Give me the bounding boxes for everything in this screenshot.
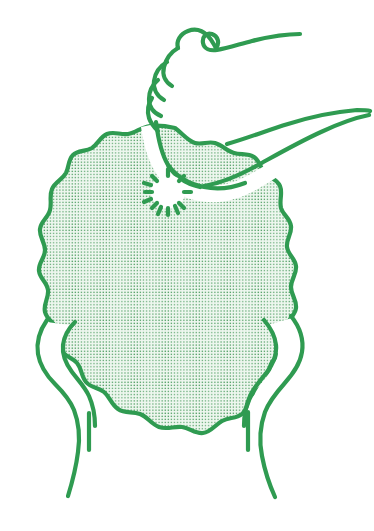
starburst-ray-wsw — [144, 199, 151, 202]
starburst-ray-sse — [175, 206, 178, 213]
fist-knuckle-1 — [163, 48, 178, 86]
line-art-drawing — [0, 0, 374, 531]
fist-group — [148, 30, 300, 131]
starburst-ray-wnw — [144, 183, 151, 185]
illustration-canvas: Person striking chest with clenched fist… — [0, 0, 374, 531]
fist-thumb-curl — [203, 34, 300, 51]
impact-starburst-icon — [144, 169, 191, 215]
starburst-ray-ssw — [158, 207, 161, 214]
